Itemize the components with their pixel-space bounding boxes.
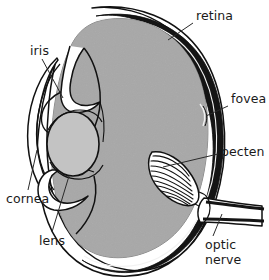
label-iris: iris bbox=[30, 44, 49, 58]
label-optic-nerve: optic nerve bbox=[205, 238, 241, 267]
label-optic-nerve-line2: nerve bbox=[205, 253, 241, 268]
label-lens: lens bbox=[39, 234, 65, 248]
label-optic-nerve-line1: optic bbox=[205, 238, 241, 253]
label-cornea: cornea bbox=[6, 192, 49, 206]
label-retina: retina bbox=[196, 9, 233, 23]
label-pecten: pecten bbox=[221, 145, 265, 159]
eye-diagram-figure: retina fovea pecten optic nerve iris cor… bbox=[0, 0, 269, 280]
label-fovea: fovea bbox=[231, 92, 266, 106]
